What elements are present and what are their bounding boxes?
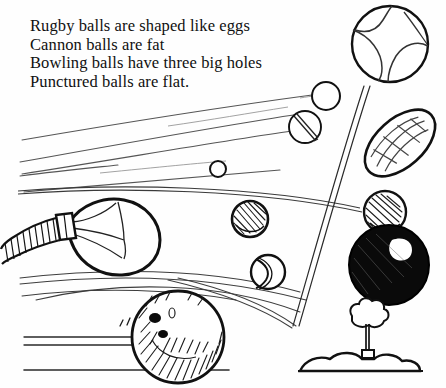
- cannon-ball: [349, 225, 429, 305]
- bowling-hole-3: [169, 308, 175, 318]
- tennis-ball: [352, 6, 428, 82]
- perspective-lines-upper: [20, 95, 312, 192]
- tree: [350, 298, 388, 358]
- page-title: Rugby balls are shaped like eggs Cannon …: [30, 17, 350, 91]
- caption-line-2: Cannon balls are fat: [30, 36, 350, 55]
- bowling-ball: [132, 291, 224, 383]
- rugby-ball: [353, 97, 446, 189]
- perspective-lines-upper-faint: [100, 96, 316, 173]
- bowling-hole-1: [149, 313, 161, 323]
- caption-line-1: Rugby balls are shaped like eggs: [30, 17, 350, 36]
- punctured-ball: [1, 199, 160, 275]
- slashed-ball: [289, 111, 321, 143]
- caption-line-4: Punctured balls are flat.: [30, 73, 350, 92]
- seam-ball: [251, 255, 285, 289]
- horizon-curve: [18, 187, 362, 212]
- caption-line-3: Bowling balls have three big holes: [30, 54, 350, 73]
- tiny-ball: [210, 161, 226, 177]
- illustration-page: Rugby balls are shaped like eggs Cannon …: [0, 0, 446, 388]
- shaded-ball-small: [232, 201, 268, 237]
- bowling-hole-2: [158, 330, 168, 338]
- ground-mound: [298, 353, 423, 371]
